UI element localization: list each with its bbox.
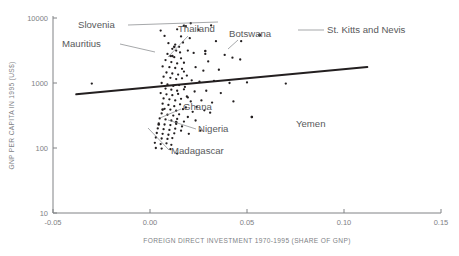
data-point: [162, 76, 164, 78]
data-point: [187, 116, 189, 118]
data-point: [184, 86, 186, 88]
data-point: [161, 65, 163, 67]
data-point: [171, 48, 173, 50]
data-point: [228, 82, 230, 84]
data-point: [285, 82, 287, 84]
data-point: [246, 81, 248, 83]
data-point: [174, 67, 176, 69]
annotation-label-thailand: Thailand: [178, 23, 215, 34]
data-point: [168, 66, 170, 68]
highlighted-point-madagascar: [157, 123, 160, 126]
data-point: [161, 133, 163, 135]
y-tick-label-10000: 10000: [27, 14, 48, 23]
data-point: [160, 143, 162, 145]
data-point: [173, 132, 175, 134]
plot-area: 10100100010000-0.050.000.050.100.15 Slov…: [0, 0, 459, 256]
data-point: [168, 129, 170, 131]
data-point: [160, 92, 162, 94]
annotation-label-st-kitts-and-nevis: St. Kitts and Nevis: [327, 24, 406, 35]
data-point: [164, 118, 166, 120]
data-point: [172, 114, 174, 116]
data-points: [91, 22, 287, 155]
data-point: [176, 90, 178, 92]
data-point: [160, 137, 162, 139]
data-point: [174, 128, 176, 130]
data-point: [157, 127, 159, 129]
data-point: [171, 94, 173, 96]
data-point: [193, 90, 195, 92]
data-point: [232, 100, 234, 102]
data-point: [207, 60, 209, 62]
annotation-labels: SloveniaMauritiusThailandBotswanaSt. Kit…: [62, 19, 406, 156]
highlighted-point-mauritius: [173, 46, 176, 49]
data-point: [183, 70, 185, 72]
scatter-chart-figure: 10100100010000-0.050.000.050.100.15 Slov…: [0, 0, 459, 256]
data-point: [202, 69, 204, 71]
data-point: [187, 96, 189, 98]
data-point: [169, 108, 171, 110]
data-point: [165, 71, 167, 73]
data-point: [166, 138, 168, 140]
annotation-label-botswana: Botswana: [229, 28, 272, 39]
data-point: [179, 103, 181, 105]
data-point: [177, 73, 179, 75]
data-point: [160, 147, 162, 149]
data-point: [181, 77, 183, 79]
data-point: [160, 82, 162, 84]
data-point: [166, 53, 168, 55]
x-tick-label-0.05: 0.05: [240, 218, 255, 227]
annotation-label-slovenia: Slovenia: [78, 19, 115, 30]
data-point: [180, 35, 182, 37]
data-point: [164, 59, 166, 61]
y-axis-title: GNP PER CAPITA IN 1995 (US$): [8, 61, 16, 169]
data-point: [183, 120, 185, 122]
highlighted-point-thailand: [171, 55, 174, 58]
data-point: [186, 74, 188, 76]
data-point: [170, 89, 172, 91]
data-point: [240, 40, 242, 42]
data-point: [165, 142, 167, 144]
data-point: [180, 57, 182, 59]
data-point: [183, 62, 185, 64]
y-tick-label-1000: 1000: [31, 79, 48, 88]
data-point: [161, 103, 163, 105]
annotation-label-mauritius: Mauritius: [62, 38, 101, 49]
highlighted-point-ghana: [161, 108, 164, 111]
data-point: [173, 105, 175, 107]
annotation-label-ghana: Ghana: [183, 101, 212, 112]
data-point: [189, 37, 191, 39]
annotation-label-nigeria: Nigeria: [198, 123, 229, 134]
data-point: [176, 118, 178, 120]
data-point: [160, 29, 162, 31]
data-point: [193, 52, 195, 54]
x-tick-label--0.05: -0.05: [44, 218, 61, 227]
leader-line-botswana: [228, 40, 238, 49]
data-point: [181, 125, 183, 127]
trend-line: [76, 67, 367, 94]
data-point: [170, 61, 172, 63]
data-point: [191, 79, 193, 81]
leader-line-nigeria: [168, 120, 196, 129]
data-point: [168, 98, 170, 100]
annotation-label-yemen: Yemen: [296, 118, 326, 129]
data-point: [91, 82, 93, 84]
data-point: [167, 104, 169, 106]
data-point: [183, 88, 185, 90]
x-tick-label-0.00: 0.00: [143, 218, 158, 227]
data-point: [163, 35, 165, 37]
data-point: [204, 53, 206, 55]
data-point: [179, 51, 181, 53]
data-point: [155, 147, 157, 149]
data-point: [160, 112, 162, 114]
data-point: [224, 54, 226, 56]
data-point: [162, 97, 164, 99]
data-point: [162, 128, 164, 130]
data-point: [239, 58, 241, 60]
data-point: [178, 113, 180, 115]
data-point: [167, 134, 169, 136]
data-point: [180, 98, 182, 100]
data-point: [181, 68, 183, 70]
data-point: [180, 129, 182, 131]
data-point: [187, 49, 189, 51]
x-tick-label-0.15: 0.15: [434, 218, 449, 227]
